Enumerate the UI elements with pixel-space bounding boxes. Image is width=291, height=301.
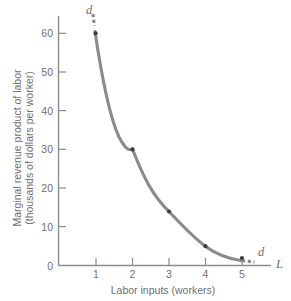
x-tick-labels: 1 2 3 4 5 [93,268,245,280]
y-tick-label-60: 60 [41,27,53,39]
y-tick-label-30: 30 [41,143,53,155]
axes-group [59,16,272,266]
data-point-4 [203,244,207,248]
y-tick-label-50: 50 [41,66,53,78]
x-tick-label-2: 2 [130,268,136,280]
data-point-3 [167,209,171,213]
demand-curve-group [93,14,255,262]
x-tick-label-5: 5 [239,268,245,280]
data-point-2 [130,147,134,151]
data-point-markers [94,31,245,260]
data-point-1 [94,31,98,35]
x-tick-label-3: 3 [166,268,172,280]
curve-label-top-d: d [86,3,93,17]
demand-curve [95,32,242,261]
x-axis-title: Labor inputs (workers) [111,284,215,296]
y-tick-label-40: 40 [41,105,53,117]
curve-annotations: d d L [86,3,283,271]
data-point-5 [240,256,244,260]
x-tick-label-1: 1 [93,268,99,280]
demand-curve-dashed-top [93,14,94,26]
y-axis-title-line1: Marginal revenue product of labor [11,69,23,227]
curve-label-bottom-d: d [258,245,265,259]
chart-figure: 60 50 40 30 20 10 0 1 2 3 4 5 [0,0,291,301]
x-axis-variable-label: L [275,257,283,271]
marginal-revenue-product-chart: 60 50 40 30 20 10 0 1 2 3 4 5 [0,0,291,301]
demand-curve-dashed-tail [242,261,255,262]
x-tick-marks [96,258,242,266]
y-tick-labels: 60 50 40 30 20 10 0 [41,27,53,271]
y-tick-label-0: 0 [47,260,53,272]
x-tick-label-4: 4 [203,268,209,280]
y-tick-label-10: 10 [41,221,53,233]
y-tick-marks [59,33,67,226]
y-axis-title-line2: (thousands of dollars per worker) [23,71,35,225]
y-tick-label-20: 20 [41,182,53,194]
